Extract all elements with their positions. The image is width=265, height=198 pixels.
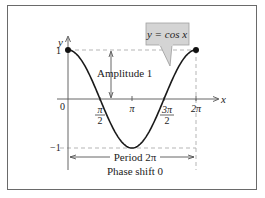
x-tick-3pi-half-num: 3π (161, 104, 173, 115)
x-tick-3pi-half-den: 2 (165, 115, 170, 126)
cosine-chart: y x 1 −1 0 π 2 π 3π 2 2π y = cos x Ampli… (0, 0, 265, 198)
y-tick-1: 1 (56, 45, 61, 56)
phase-shift-label: Phase shift 0 (107, 165, 164, 177)
x-tick-pi-half-den: 2 (98, 115, 103, 126)
y-tick-neg1: −1 (50, 142, 61, 153)
point-start (65, 47, 71, 53)
period-label: Period 2π (114, 151, 157, 163)
x-tick-0: 0 (60, 101, 65, 112)
x-tick-2pi: 2π (191, 103, 202, 114)
function-label: y = cos x (146, 28, 187, 40)
x-tick-pi: π (129, 103, 135, 114)
x-axis-label: x (220, 93, 226, 105)
point-end (193, 47, 199, 53)
amplitude-label: Amplitude 1 (97, 67, 152, 79)
